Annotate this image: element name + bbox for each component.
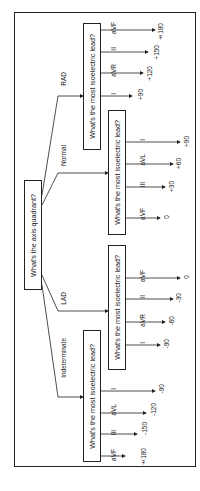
normal-axis-3: +90 — [183, 136, 190, 147]
lad-axis-3: 0 — [183, 275, 190, 279]
rad-lead-1: aVR — [110, 64, 117, 77]
normal-axis-2: +60 — [175, 158, 182, 169]
normal-question: What's the most isoelectric lead? — [113, 120, 122, 225]
indeterminate-axis-2: -120 — [150, 403, 157, 416]
lad-lead-3: aVF — [139, 270, 146, 282]
normal-lead-1: III — [139, 182, 146, 187]
normal-axis-0: 0 — [163, 215, 170, 219]
lad-axis-1: -60 — [168, 316, 175, 325]
lad-question-box: What's the most isoelectric lead? — [108, 245, 126, 370]
indeterminate-lead-0: aVF — [110, 449, 117, 461]
indeterminate-question-box: What's the most isoelectric lead? — [83, 330, 101, 462]
branch-label-normal: Normal — [60, 145, 67, 166]
rad-lead-2: II — [110, 47, 117, 51]
indeterminate-axis-0: ±180 — [140, 448, 147, 466]
indeterminate-question: What's the most isoelectric lead? — [88, 344, 97, 449]
rad-question: What's the most isoelectric lead? — [88, 34, 97, 139]
lad-question: What's the most isoelectric lead? — [113, 255, 122, 360]
rad-question-box: What's the most isoelectric lead? — [83, 23, 101, 150]
normal-axis-1: +30 — [168, 181, 175, 192]
rad-axis-2: +150 — [153, 45, 160, 60]
normal-question-box: What's the most isoelectric lead? — [108, 110, 126, 235]
indeterminate-axis-3: -90 — [158, 384, 165, 393]
normal-lead-0: aVF — [139, 208, 146, 220]
indeterminate-lead-1: III — [110, 430, 117, 435]
normal-lead-2: aVL — [139, 154, 146, 166]
normal-lead-3: I — [139, 139, 146, 141]
rad-axis-3: ±180 — [157, 23, 164, 41]
indeterminate-lead-3: I — [110, 388, 117, 390]
branch-label-rad: RAD — [60, 72, 67, 86]
indeterminate-axis-1: -150 — [141, 422, 148, 435]
branch-label-lad: LAD — [60, 292, 67, 305]
rad-lead-3: aVF — [110, 22, 117, 34]
branch-label-indeterminate: Indeterminate — [60, 338, 67, 378]
lad-lead-2: II — [139, 295, 146, 299]
lad-axis-0: -90 — [163, 339, 170, 348]
lad-lead-1: aVR — [139, 314, 146, 327]
lad-axis-2: -30 — [175, 293, 182, 302]
indeterminate-lead-2: aVL — [110, 404, 117, 416]
rad-axis-0: +90 — [137, 89, 144, 100]
lad-lead-0: I — [139, 342, 146, 344]
rad-lead-0: I — [110, 93, 117, 95]
root-question-box: What's the axis quadrant? — [24, 180, 42, 290]
root-question: What's the axis quadrant? — [29, 194, 38, 277]
rad-axis-1: +120 — [146, 66, 153, 81]
